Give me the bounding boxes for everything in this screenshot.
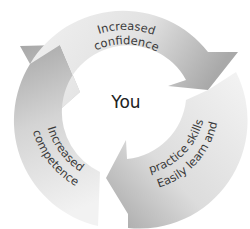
center-label: You (110, 92, 140, 112)
cycle-diagram: You Increased confidence Easily learn an… (0, 0, 250, 229)
